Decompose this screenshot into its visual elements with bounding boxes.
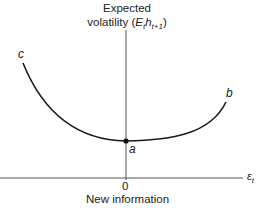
point-b-label: b — [226, 86, 233, 100]
news-impact-curve — [23, 63, 226, 141]
origin-tick-label: 0 — [122, 180, 128, 192]
y-axis-label-line1: Expected — [60, 1, 194, 15]
y-axis-label: Expected volatility (Etht+1) — [60, 1, 194, 34]
epsilon-sub: t — [252, 176, 254, 185]
point-a-label: a — [129, 142, 136, 156]
point-a-marker — [123, 138, 128, 143]
y-label-sub2: t+1 — [152, 22, 163, 31]
y-label-prefix: volatility ( — [87, 16, 135, 28]
x-axis-symbol: εt — [247, 170, 254, 185]
x-axis-label: New information — [86, 193, 169, 205]
point-c-label: c — [18, 47, 24, 61]
y-label-symbol: E — [135, 16, 143, 28]
y-label-suffix: ) — [163, 16, 167, 28]
y-axis-label-line2: volatility (Etht+1) — [60, 15, 194, 34]
